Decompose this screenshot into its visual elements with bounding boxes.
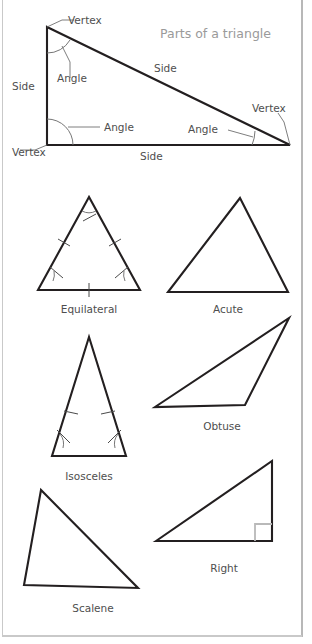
equilateral-arc-apex-hash — [83, 214, 96, 221]
diagram-canvas: Parts of a triangle Vertex — [0, 0, 312, 644]
equilateral-arc-br-hash — [115, 267, 128, 278]
acute-triangle-figure: Acute — [168, 198, 288, 315]
right-label: Right — [210, 562, 238, 574]
acute-label: Acute — [213, 303, 243, 315]
bottom-left-angle-arc — [47, 119, 73, 145]
label-vertex-top: Vertex — [68, 14, 102, 26]
isosceles-triangle-outline — [52, 337, 126, 456]
label-vertex-bottom-right: Vertex — [252, 102, 286, 114]
acute-triangle-outline — [168, 198, 288, 292]
bottom-right-angle-arc — [252, 131, 255, 145]
equilateral-label: Equilateral — [61, 303, 117, 315]
equilateral-triangle-outline — [38, 197, 140, 290]
label-side-left: Side — [12, 80, 35, 92]
obtuse-triangle-outline — [155, 318, 289, 407]
right-triangle-figure: Right — [156, 461, 272, 574]
obtuse-label: Obtuse — [203, 420, 241, 432]
equilateral-arc-bottom-left — [53, 271, 54, 281]
isosceles-triangle-figure: Isosceles — [52, 337, 126, 482]
isosceles-label: Isosceles — [65, 470, 113, 482]
label-vertex-bottom-left: Vertex — [12, 146, 46, 158]
scalene-triangle-figure: Scalene — [24, 490, 138, 614]
label-angle-top: Angle — [57, 72, 87, 84]
label-side-hypotenuse: Side — [154, 62, 177, 74]
right-angle-marker — [255, 524, 272, 541]
label-side-bottom: Side — [140, 150, 163, 162]
label-angle-bottom-right: Angle — [188, 123, 218, 135]
apex-angle-arc — [47, 40, 70, 53]
equilateral-arc-bottom-right — [124, 271, 125, 281]
equilateral-tick-left — [58, 239, 70, 246]
equilateral-arc-apex — [82, 211, 96, 213]
bottom-right-angle-leader — [228, 130, 253, 137]
scalene-triangle-outline — [24, 490, 138, 588]
geometry-figure-page: Parts of a triangle Vertex — [0, 0, 312, 644]
obtuse-triangle-figure: Obtuse — [155, 318, 289, 432]
equilateral-arc-bl-hash — [50, 267, 63, 278]
equilateral-triangle-figure: Equilateral — [38, 197, 140, 315]
page-title: Parts of a triangle — [160, 26, 271, 41]
scalene-label: Scalene — [72, 602, 113, 614]
label-angle-bottom-left: Angle — [104, 121, 134, 133]
